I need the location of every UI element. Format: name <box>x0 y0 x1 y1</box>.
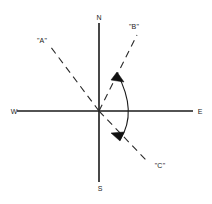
ray-a-line <box>50 46 99 111</box>
angle-arc-group <box>111 72 128 141</box>
angle-arc-arrowhead-upper <box>111 72 124 82</box>
south-label: S <box>98 185 103 192</box>
ray-b-label: "B" <box>129 23 140 30</box>
east-label: E <box>198 108 203 115</box>
compass-diagram-canvas: N S W E "A" "B" "C" <box>0 0 212 204</box>
axis-group <box>17 23 193 182</box>
angle-arc-path <box>117 73 128 140</box>
compass-diagram: N S W E "A" "B" "C" <box>0 0 212 204</box>
west-label: W <box>11 108 18 115</box>
ray-label-group: "A" "B" "C" <box>37 23 166 169</box>
ray-c-label: "C" <box>155 162 166 169</box>
ray-group <box>50 35 146 160</box>
north-label: N <box>96 14 101 21</box>
ray-a-label: "A" <box>37 37 48 44</box>
angle-arc-arrowhead-lower <box>111 132 124 141</box>
